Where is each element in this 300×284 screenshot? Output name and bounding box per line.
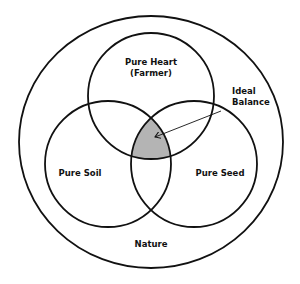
pure-soil-label: Pure Soil xyxy=(59,168,102,178)
pure-heart-label: Pure Heart xyxy=(125,57,177,67)
farmer-label: (Farmer) xyxy=(130,68,172,78)
nature-label: Nature xyxy=(135,239,168,249)
pure-seed-label: Pure Seed xyxy=(196,168,245,178)
pure-soil-circle xyxy=(45,101,171,227)
balance-label: Balance xyxy=(232,97,270,107)
ideal-label: Ideal xyxy=(232,86,256,96)
pure-seed-circle xyxy=(131,101,257,227)
venn-diagram: Pure Heart (Farmer) Ideal Balance Pure S… xyxy=(0,0,300,284)
arrow-icon xyxy=(155,111,221,137)
